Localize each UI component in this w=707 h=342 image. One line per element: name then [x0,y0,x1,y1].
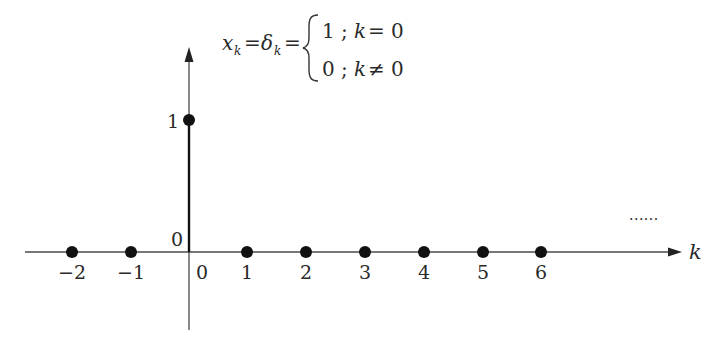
y-tick-zero: 0 [171,228,183,250]
continuation-ellipsis: ...... [629,207,659,223]
sample-point-k2 [300,246,312,258]
x-tick-labels: −2 −1 0 1 2 3 4 5 6 [58,261,547,283]
sample-point-km2 [66,246,78,258]
x-tick-label: −2 [58,261,86,283]
x-tick-label: −1 [117,261,145,283]
sample-point-km1 [125,246,137,258]
formula-equals-2: = [284,31,301,55]
k-axis-arrow-icon [668,248,682,257]
sample-point-k3 [359,246,371,258]
sample-point-k6 [535,246,547,258]
x-tick-label: 6 [535,261,547,283]
x-tick-label: 3 [359,261,371,283]
x-tick-label: 2 [300,261,312,283]
sample-point-k1 [241,246,253,258]
sample-point-k5 [477,246,489,258]
formula-delta: δ [261,31,273,55]
formula-equals-1: = [244,31,261,55]
x-tick-label: 0 [196,261,208,283]
x-tick-label: 1 [241,261,253,283]
cases-brace-icon [303,15,318,81]
x-tick-label: 5 [477,261,489,283]
case1-value: 1 [322,19,335,43]
formula-x: x [222,31,233,55]
case1-condition-var: k [354,19,366,43]
case2-condition: ≠ 0 [368,57,404,81]
sample-point-k4 [418,246,430,258]
case1-separator: ; [341,19,348,43]
unit-impulse-diagram: k 1 0 −2 −1 0 1 2 3 4 5 6 ...... x k = [0,0,707,342]
y-tick-one: 1 [167,110,179,132]
formula-x-subscript: k [234,44,241,58]
k-axis-label: k [689,240,702,264]
case2-separator: ; [341,57,348,81]
case1-condition: = 0 [368,19,404,43]
formula-delta-subscript: k [274,44,281,58]
case2-condition-var: k [354,57,366,81]
definition-formula: x k = δ k = 1 ; k = 0 0 ; k ≠ 0 [222,15,404,81]
value-axis-arrow-icon [185,47,194,62]
case2-value: 0 [322,57,335,81]
impulse-point-k0 [183,114,195,126]
x-tick-label: 4 [418,261,430,283]
